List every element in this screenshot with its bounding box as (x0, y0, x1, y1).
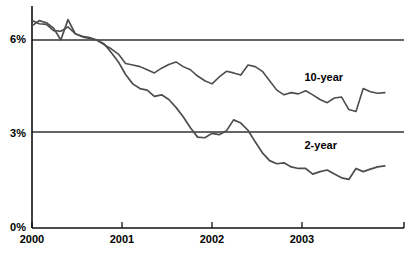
x-tick-label-2000: 2000 (10, 233, 54, 245)
y-tick-label-3pct: 3% (0, 127, 26, 139)
x-tick-label-2003: 2003 (280, 233, 324, 245)
series-line-10-year (32, 21, 385, 112)
gridlines-group (32, 40, 404, 132)
y-tick-label-6pct: 6% (0, 33, 26, 45)
yield-curve-line-chart: 0% 3% 6% 2000 2001 2002 2003 10-year 2-y… (0, 0, 415, 254)
series-annotation-10-year: 10-year (305, 71, 344, 83)
series-annotation-2-year: 2-year (305, 139, 337, 151)
x-tick-label-2002: 2002 (190, 233, 234, 245)
chart-plot-area (0, 0, 415, 254)
x-axis-ticks (32, 222, 302, 228)
x-tick-label-2001: 2001 (100, 233, 144, 245)
y-tick-label-0pct: 0% (0, 221, 26, 233)
